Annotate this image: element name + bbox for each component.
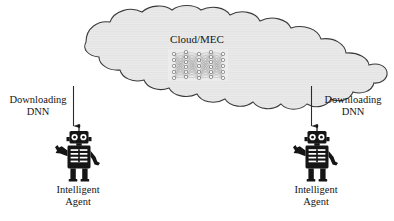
robot-icon bbox=[293, 125, 338, 182]
intelligent-agent-label-left: Intelligent Agent bbox=[37, 184, 119, 209]
neural-network-icon bbox=[168, 49, 228, 81]
downloading-dnn-label-right: Downloading DNN bbox=[316, 94, 390, 119]
diagram-canvas: Cloud/MEC Downloading DNN Downloading DN… bbox=[0, 0, 394, 221]
robot-icon bbox=[55, 125, 100, 182]
cloud-label: Cloud/MEC bbox=[0, 33, 394, 46]
intelligent-agent-label-right: Intelligent Agent bbox=[275, 184, 357, 209]
downloading-dnn-label-left: Downloading DNN bbox=[4, 94, 72, 119]
